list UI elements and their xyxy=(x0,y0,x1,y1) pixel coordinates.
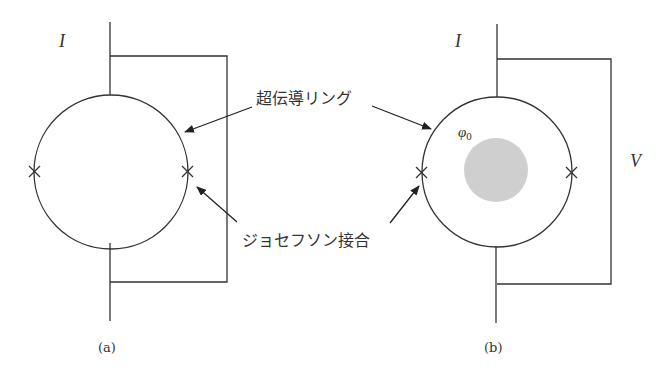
ring-arrow-right xyxy=(372,106,431,129)
junction-label: ジョセフソン接合 xyxy=(242,231,370,250)
ring-label: 超伝導リング xyxy=(256,89,352,108)
caption-a: (a) xyxy=(98,340,116,355)
magnetic-flux-region xyxy=(464,138,528,202)
current-label-a: I xyxy=(58,31,66,51)
caption-b: (b) xyxy=(484,340,502,355)
flux-symbol: φ xyxy=(458,124,466,140)
junction-arrow-left xyxy=(197,187,237,222)
junction-arrow-right xyxy=(390,186,419,223)
flux-subscript: 0 xyxy=(466,130,472,142)
voltage-label-b: V xyxy=(630,151,643,171)
ring-arrow-left xyxy=(185,107,252,132)
superconducting-ring-a xyxy=(34,95,188,249)
squid-diagram: I (a) I V φ0 (b) 超伝導リング ジョセフソン接合 xyxy=(0,0,662,380)
current-label-b: I xyxy=(454,31,462,51)
flux-label: φ0 xyxy=(458,124,472,142)
panel-a xyxy=(29,22,227,321)
bypass-wire-a xyxy=(110,56,227,282)
